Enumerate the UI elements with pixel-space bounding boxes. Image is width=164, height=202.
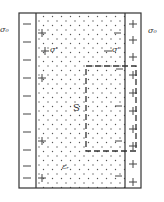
dielectric-diagram xyxy=(0,0,164,202)
dielectric-region xyxy=(36,13,125,188)
left-sigma-label: σ₀ xyxy=(0,26,9,34)
gaussian-surface-label: S xyxy=(73,103,80,113)
right-sigma-label: σ₀ xyxy=(148,27,157,35)
permittivity-label: εᵣ xyxy=(62,163,69,171)
bound-charge-left-label: σ' xyxy=(50,46,58,54)
left-plate-negative-charges xyxy=(23,24,31,178)
bound-charge-right-label: σ' xyxy=(112,46,120,54)
